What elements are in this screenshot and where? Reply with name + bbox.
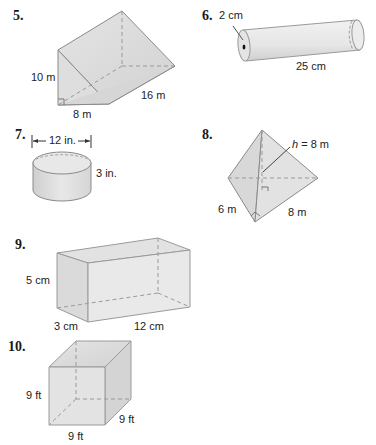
cube-height-label: 9 ft [26,389,41,401]
prism-length-label: 16 m [141,89,165,101]
problem-number-10: 10. [8,339,26,355]
height-value: = 8 m [301,138,329,150]
cube-width-label: 9 ft [68,430,83,442]
pyramid-side1-label: 6 m [218,203,236,215]
cylinder-diameter-label: 2 cm [219,9,243,21]
box-length-label: 12 cm [134,320,164,332]
short-cylinder-diameter-label: 12 in. [49,134,76,146]
cylinder-length-label: 25 cm [296,60,326,72]
height-variable: h [292,138,298,150]
problem-number-7: 7. [15,127,26,143]
pyramid-height-label: h = 8 m [292,138,329,150]
box-width-label: 3 cm [54,320,78,332]
problem-number-5: 5. [13,8,24,24]
problem-number-8: 8. [202,127,213,143]
pyramid-side2-label: 8 m [288,206,306,218]
prism-height-label: 10 m [31,71,55,83]
problem-number-9: 9. [15,237,26,253]
cube-depth-label: 9 ft [119,413,134,425]
prism-base-label: 8 m [73,108,91,120]
problem-number-6: 6. [202,8,213,24]
rectangular-prism-figure [57,238,190,322]
long-cylinder-figure [233,20,365,62]
short-cylinder-height-label: 3 in. [96,167,117,179]
box-height-label: 5 cm [26,274,50,286]
